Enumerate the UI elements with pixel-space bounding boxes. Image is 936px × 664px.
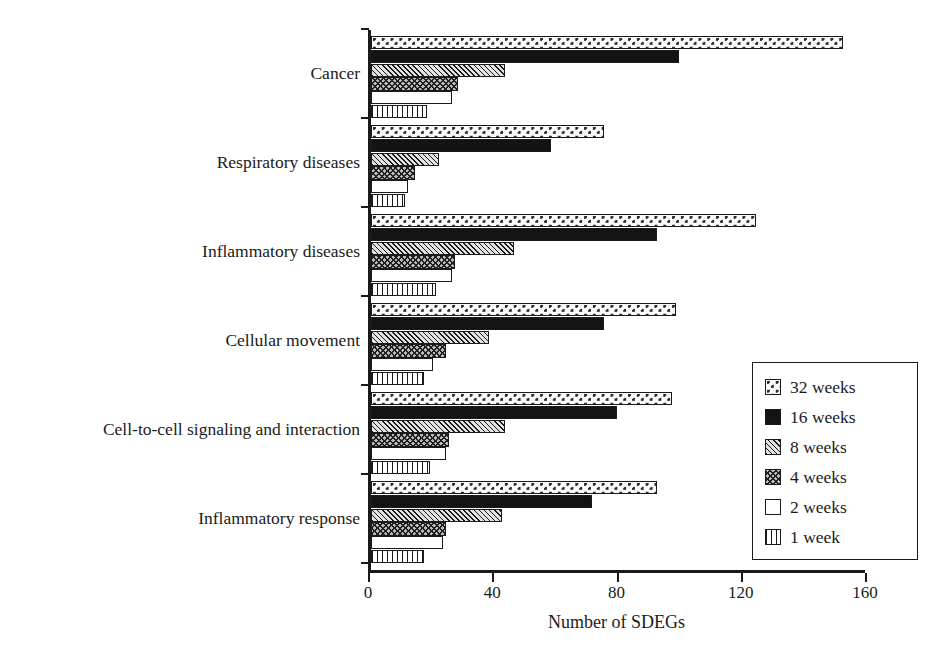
category-label: Respiratory diseases [0,152,360,173]
bar [371,509,502,522]
legend-item[interactable]: 2 weeks [765,492,917,522]
x-tick [492,573,494,582]
bar [371,242,514,255]
legend-item[interactable]: 1 week [765,522,917,552]
bar [371,214,756,227]
bar [371,317,604,330]
category-label: Cell-to-cell signaling and interaction [0,419,360,440]
bar [371,139,551,152]
bar [371,180,408,193]
bar [371,522,446,535]
bar [371,447,446,460]
legend-item[interactable]: 8 weeks [765,432,917,462]
bar [371,36,843,49]
bar-chart-figure: 04080120160 CancerRespiratory diseasesIn… [0,0,936,664]
legend-label-1-week: 1 week [790,527,840,548]
legend-label-4-weeks: 4 weeks [790,467,847,488]
bar [371,406,617,419]
category-label: Inflammatory response [0,508,360,529]
legend-label-16-weeks: 16 weeks [790,407,856,428]
category-label: Cancer [0,63,360,84]
x-tick-label: 120 [711,583,771,603]
legend-label-32-weeks: 32 weeks [790,377,856,398]
bar [371,331,489,344]
bar [371,550,424,563]
category-label: Cellular movement [0,330,360,351]
bar [371,420,505,433]
x-tick-label: 0 [338,583,398,603]
x-tick-label: 80 [587,583,647,603]
bar [371,344,446,357]
bar [371,269,452,282]
bar [371,166,415,179]
bar [371,433,449,446]
bar [371,228,657,241]
x-tick [741,573,743,582]
x-tick [865,573,867,582]
y-tick [361,473,369,475]
y-tick [361,295,369,297]
bar [371,481,657,494]
legend-item[interactable]: 4 weeks [765,462,917,492]
legend-item[interactable]: 16 weeks [765,402,917,432]
bar [371,125,604,138]
legend-item[interactable]: 32 weeks [765,372,917,402]
bar [371,64,505,77]
x-tick [617,573,619,582]
legend-swatch-1-week [765,529,781,545]
y-tick [361,28,369,30]
bar [371,358,433,371]
legend-label-2-weeks: 2 weeks [790,497,847,518]
legend-swatch-8-weeks [765,439,781,455]
legend-swatch-2-weeks [765,499,781,515]
y-tick [361,206,369,208]
legend-swatch-4-weeks [765,469,781,485]
bar [371,536,443,549]
bar [371,255,455,268]
bar [371,91,452,104]
y-tick [361,117,369,119]
bar [371,392,672,405]
x-axis-title: Number of SDEGs [368,612,865,633]
bar [371,372,424,385]
y-tick [361,562,369,564]
bar [371,283,436,296]
x-tick-label: 160 [835,583,895,603]
bar [371,303,676,316]
bar [371,77,458,90]
bar [371,105,427,118]
legend-swatch-16-weeks [765,409,781,425]
x-tick-label: 40 [462,583,522,603]
bar [371,194,405,207]
bar [371,495,592,508]
bar [371,461,430,474]
category-label: Inflammatory diseases [0,241,360,262]
x-tick [368,573,370,582]
legend: 32 weeks 16 weeks 8 weeks 4 weeks 2 week… [752,362,918,560]
bar [371,50,679,63]
legend-label-8-weeks: 8 weeks [790,437,847,458]
y-tick [361,384,369,386]
legend-swatch-32-weeks [765,379,781,395]
bar [371,153,439,166]
